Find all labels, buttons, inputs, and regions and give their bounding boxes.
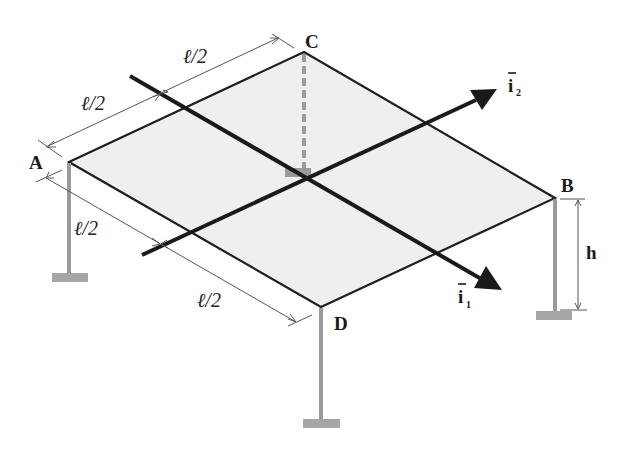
footing-b xyxy=(536,311,572,320)
axis-label-i1: i 1 xyxy=(458,284,471,310)
footing-d xyxy=(303,419,340,428)
node-label-a: A xyxy=(29,152,43,173)
svg-text:i: i xyxy=(458,286,463,307)
axis-label-i2: i 2 xyxy=(508,73,521,98)
svg-text:2: 2 xyxy=(516,87,521,98)
node-label-c: C xyxy=(305,31,319,52)
dim-label-ad-1: ℓ/2 xyxy=(74,217,98,239)
footing-a xyxy=(52,273,88,282)
structural-diagram: A C B D ℓ/2 ℓ/2 ℓ/2 ℓ/2 h i 2 i 1 xyxy=(0,0,625,449)
dim-label-h: h xyxy=(586,242,597,263)
node-label-d: D xyxy=(334,313,348,334)
dim-label-ac-1: ℓ/2 xyxy=(183,45,207,67)
svg-text:i: i xyxy=(508,75,513,96)
dimension-h xyxy=(560,199,587,310)
dim-label-ad-2: ℓ/2 xyxy=(197,289,221,311)
column-b xyxy=(536,199,572,320)
svg-text:1: 1 xyxy=(466,299,471,310)
dim-label-ac-2: ℓ/2 xyxy=(81,92,105,114)
node-label-b: B xyxy=(561,175,574,196)
